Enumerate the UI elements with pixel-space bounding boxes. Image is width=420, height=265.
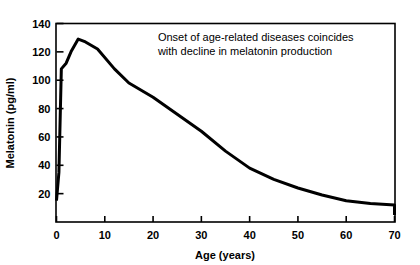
y-tick-label: 100 [32, 74, 50, 86]
y-tick-label: 60 [38, 131, 50, 143]
y-tick-label: 80 [38, 103, 50, 115]
x-tick-label: 60 [340, 229, 352, 241]
annotation-line: with decline in melatonin production [157, 45, 332, 57]
y-tick-label: 140 [32, 18, 50, 30]
y-tick-label: 20 [38, 188, 50, 200]
y-tick-label: 40 [38, 159, 50, 171]
x-tick-label: 70 [388, 229, 400, 241]
x-tick-label: 0 [53, 229, 59, 241]
x-tick-label: 50 [292, 229, 304, 241]
x-axis-ticks [57, 216, 395, 222]
x-tick-label: 20 [147, 229, 159, 241]
melatonin-curve [57, 39, 395, 215]
y-axis-tick-labels: 20406080100120140 [32, 18, 50, 200]
x-axis-title: Age (years) [195, 249, 255, 261]
onset-annotation: Onset of age-related diseases coincidesw… [157, 31, 354, 57]
melatonin-decline-line-chart: 010203040506070 20406080100120140 Age (y… [0, 0, 420, 265]
chart-figure: 010203040506070 20406080100120140 Age (y… [0, 0, 420, 265]
x-tick-label: 30 [195, 229, 207, 241]
x-tick-label: 40 [244, 229, 256, 241]
y-axis-title: Melatonin (pg/ml) [4, 77, 16, 168]
x-tick-label: 10 [99, 229, 111, 241]
x-axis-tick-labels: 010203040506070 [53, 229, 400, 241]
y-tick-label: 120 [32, 46, 50, 58]
chart-annotations: Onset of age-related diseases coincidesw… [157, 31, 354, 57]
annotation-line: Onset of age-related diseases coincides [158, 31, 354, 43]
